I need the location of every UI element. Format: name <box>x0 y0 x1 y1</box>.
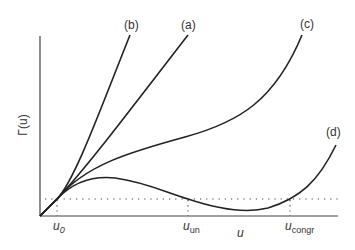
tick-u0: u0 <box>53 219 65 235</box>
curve-b <box>40 35 130 216</box>
label-curve-b: (b) <box>124 18 139 32</box>
label-curve-d: (d) <box>326 125 341 139</box>
curve-c <box>40 35 302 216</box>
diagram: (b) (a) (c) (d) Γ(u) u u0 uun ucongr <box>0 0 355 250</box>
x-axis-label: u <box>237 226 244 240</box>
tick-uun: uun <box>183 219 200 235</box>
y-axis-label: Γ(u) <box>16 114 30 135</box>
curve-a <box>40 35 188 216</box>
label-curve-a: (a) <box>181 18 196 32</box>
tick-ucongr: ucongr <box>285 219 314 235</box>
label-curve-c: (c) <box>300 17 314 31</box>
